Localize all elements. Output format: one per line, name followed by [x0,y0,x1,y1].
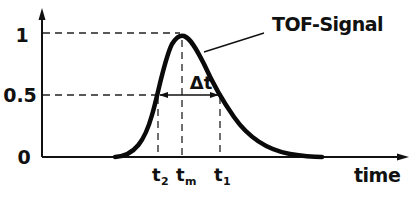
y-tick-0.5: 0.5 [3,84,37,106]
marker-t1-base: t [214,164,223,185]
y-axis [39,8,46,157]
y-tick-0: 0 [17,146,30,168]
left-arrowhead-icon [159,92,168,98]
tof-signal-curve [115,36,322,157]
marker-t1-sub: 1 [223,175,231,188]
signal-leader-line [204,33,264,52]
marker-t1: t 1 [214,164,231,188]
marker-t2-base: t [152,164,161,185]
y-axis-arrow-icon [39,8,46,20]
x-axis-arrow-icon [397,154,409,161]
marker-t2-sub: 2 [161,175,169,188]
marker-tm-sub: m [185,175,196,188]
marker-tm: t m [176,164,196,188]
marker-tm-base: t [176,164,185,185]
y-tick-1: 1 [15,24,28,46]
signal-label: TOF-Signal [272,13,383,35]
x-axis-label: time [354,164,400,186]
x-axis [42,154,409,161]
tof-signal-diagram: 1 0.5 0 Δt TOF-Signal t 2 t m t 1 time [0,0,418,198]
marker-t2: t 2 [152,164,169,188]
